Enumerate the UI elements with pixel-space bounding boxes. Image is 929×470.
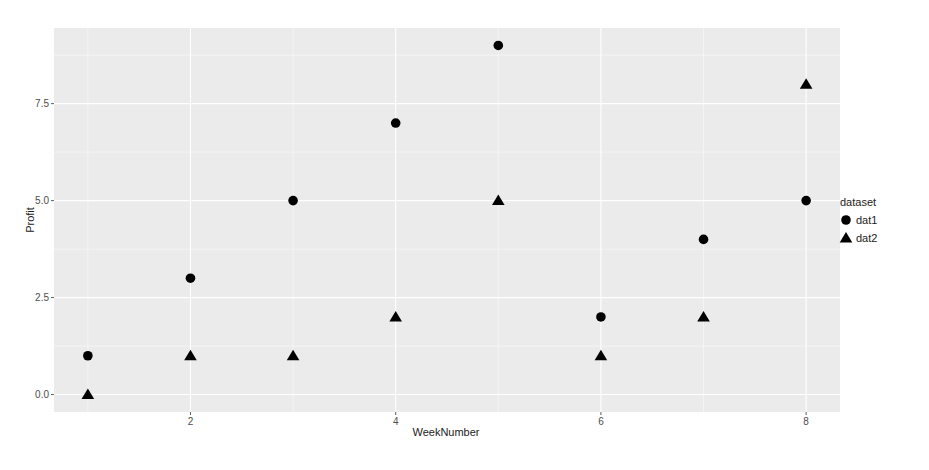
triangle-icon — [840, 232, 853, 243]
dat1-point — [494, 41, 504, 51]
x-tick-label: 8 — [803, 416, 809, 427]
dat1-point — [83, 351, 93, 361]
x-tick-label: 6 — [598, 416, 604, 427]
y-tick-label: 2.5 — [35, 292, 49, 303]
y-tick-label: 7.5 — [35, 98, 49, 109]
dat1-point — [596, 312, 606, 322]
dat1-point — [699, 235, 709, 245]
dat1-point — [801, 196, 811, 206]
y-tick-label: 5.0 — [35, 195, 49, 206]
scatter-chart: 0.02.55.07.5 2468 WeekNumber Profit data… — [0, 0, 929, 470]
legend-title: dataset — [840, 196, 876, 208]
x-tick-label: 2 — [188, 416, 194, 427]
x-axis-title: WeekNumber — [412, 426, 479, 438]
x-tick-label: 4 — [393, 416, 399, 427]
y-axis-title: Profit — [24, 207, 36, 233]
legend: dataset dat1dat2 — [840, 196, 878, 244]
plot-panel — [54, 28, 840, 412]
circle-icon — [841, 215, 851, 225]
x-axis: 2468 — [188, 412, 810, 427]
y-tick-label: 0.0 — [35, 389, 49, 400]
dat1-point — [186, 273, 196, 283]
dat1-point — [391, 118, 401, 128]
legend-label-dat1: dat1 — [856, 214, 877, 226]
legend-label-dat2: dat2 — [856, 232, 877, 244]
y-axis: 0.02.55.07.5 — [35, 98, 54, 400]
dat1-point — [288, 196, 298, 206]
